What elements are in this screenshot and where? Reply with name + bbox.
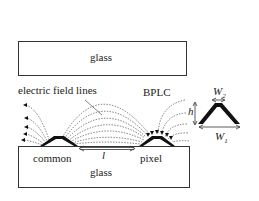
top-glass-label: glass xyxy=(90,52,112,63)
w2-subscript: 2 xyxy=(222,92,226,100)
w1-subscript: 1 xyxy=(224,137,228,145)
inset-electrode-trapezoid xyxy=(198,103,240,124)
w1-symbol: W xyxy=(215,130,224,142)
pixel-label: pixel xyxy=(140,153,162,164)
common-label: common xyxy=(33,153,72,164)
inset-h-label: h xyxy=(188,106,194,117)
inset-w1-label: W1 xyxy=(215,131,228,145)
field-lines-leader xyxy=(85,100,102,115)
w2-symbol: W xyxy=(213,85,222,97)
bottom-glass-label: glass xyxy=(90,167,112,178)
common-electrode xyxy=(40,136,78,146)
diagram-canvas xyxy=(0,0,259,201)
inset-dimension-arrows xyxy=(193,98,240,129)
bplc-label: BPLC xyxy=(143,87,171,98)
field-lines-label: electric field lines xyxy=(18,85,97,96)
pixel-electrode xyxy=(139,136,175,146)
inset-w2-label: W2 xyxy=(213,86,226,100)
gap-label: l xyxy=(102,150,105,161)
field-arrowheads-left xyxy=(21,103,28,142)
